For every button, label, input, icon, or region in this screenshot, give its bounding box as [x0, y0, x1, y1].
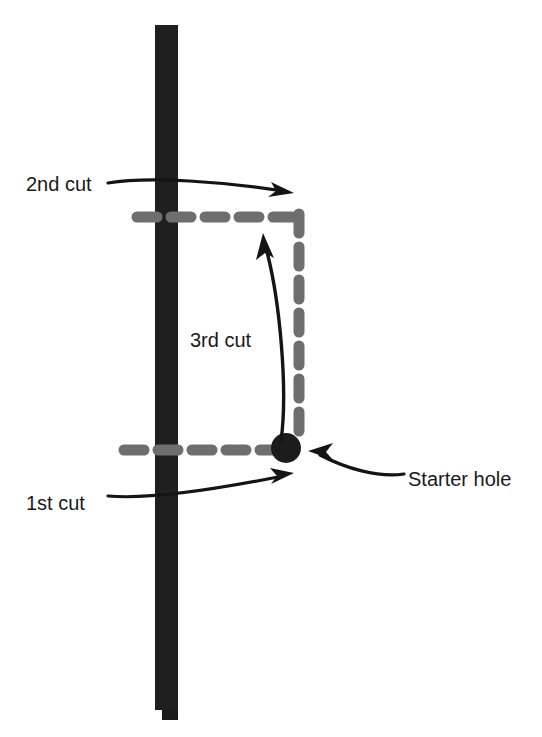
first-cut-label: 1st cut — [26, 492, 85, 514]
third-cut-label: 3rd cut — [190, 329, 252, 351]
stud-shading — [155, 25, 178, 710]
starter-hole — [271, 433, 301, 463]
vertical-stud — [155, 25, 178, 720]
second-cut-label: 2nd cut — [26, 173, 92, 195]
starter-hole-label: Starter hole — [408, 468, 511, 490]
diagram-background — [0, 0, 542, 737]
diagram-canvas: 2nd cut 3rd cut 1st cut Starter hole — [0, 0, 542, 737]
cutting-sequence-diagram: 2nd cut 3rd cut 1st cut Starter hole — [0, 0, 542, 737]
